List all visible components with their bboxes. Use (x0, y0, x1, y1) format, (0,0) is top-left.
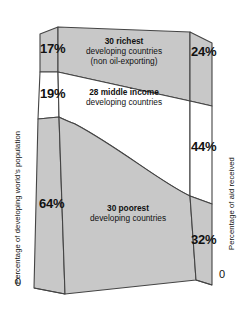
left-pct-poorest: 64% (39, 196, 64, 211)
right-pct-poorest: 32% (191, 232, 216, 247)
chart-figure: Percentage of developing world's populat… (0, 0, 237, 312)
band-poorest-sub1: developing countries (62, 213, 194, 223)
band-middle-sub1: developing countries (58, 97, 190, 107)
band-label-richest: 30 richest developing countries (non oil… (58, 36, 190, 66)
band-richest-sub2: (non oil-exporting) (58, 56, 190, 66)
right-axis-origin-label: 0 (219, 268, 225, 281)
band-label-poorest: 30 poorest developing countries (62, 203, 194, 223)
band-label-middle: 28 middle income developing countries (58, 87, 190, 107)
right-axis-title: Percentage of aid received (228, 157, 237, 250)
right-pct-richest: 24% (191, 44, 216, 59)
left-axis-title: Percentage of developing world's populat… (14, 131, 23, 284)
band-middle-title: 28 middle income (58, 87, 190, 97)
center-flow-group (58, 27, 196, 294)
right-pct-middle: 44% (191, 139, 216, 154)
band-richest-sub1: developing countries (58, 46, 190, 56)
band-richest-title: 30 richest (58, 36, 190, 46)
left-axis-origin-label: 0 (15, 276, 21, 289)
band-poorest-title: 30 poorest (62, 203, 194, 213)
